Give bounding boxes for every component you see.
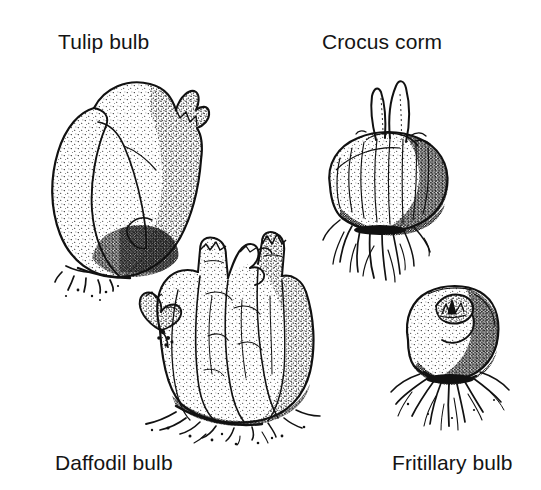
label-tulip-bulb: Tulip bulb bbox=[58, 31, 149, 52]
label-daffodil-bulb: Daffodil bulb bbox=[55, 452, 173, 473]
fritillary-root-crown bbox=[426, 374, 474, 384]
fritillary-bulb-illustration bbox=[0, 0, 541, 490]
label-crocus-corm: Crocus corm bbox=[322, 31, 442, 52]
label-fritillary-bulb: Fritillary bulb bbox=[392, 452, 513, 473]
bulb-types-figure: Tulip bulb Crocus corm Daffodil bulb Fri… bbox=[0, 0, 541, 490]
